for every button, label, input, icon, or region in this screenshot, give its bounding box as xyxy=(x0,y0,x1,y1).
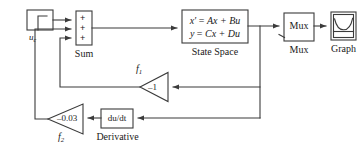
gain-f1-caption: f1 xyxy=(136,64,142,76)
mux-block-label: Mux xyxy=(284,21,314,31)
derivative-block-label: du/dt xyxy=(101,114,133,123)
state-space-equation-2: y = Cx + Du xyxy=(182,29,248,39)
sum-sign-2: + xyxy=(80,24,85,33)
state-space-block-caption: State Space xyxy=(180,47,250,57)
source-block-label: uc xyxy=(29,33,36,43)
sum-sign-3: + xyxy=(80,34,85,43)
gain-f2-caption: f2 xyxy=(58,132,64,144)
sum-block-caption: Sum xyxy=(67,49,101,59)
state-space-equation-1: x′ = Ax + Bu xyxy=(182,16,248,26)
gain-f1-value: –1 xyxy=(148,83,157,92)
wire-gain-f1-to-sum xyxy=(60,38,140,87)
graph-block-caption: Graph xyxy=(327,44,360,54)
block-diagram-canvas: uc + + + Sum x′ = Ax + Bu y = Cx + Du St… xyxy=(0,0,360,146)
sum-sign-1: + xyxy=(80,14,85,23)
source-block-shape xyxy=(27,10,53,30)
gain-f2-value: –0.03 xyxy=(57,114,77,123)
graph-block-shape xyxy=(331,12,356,40)
wire-gain-f2-to-sum xyxy=(35,29,71,119)
mux-block-caption: Mux xyxy=(284,45,314,55)
derivative-block-caption: Derivative xyxy=(90,132,145,142)
